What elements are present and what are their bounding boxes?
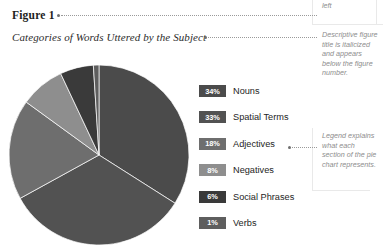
annotation-legend: Legend explains what each section of the… [322,131,378,169]
leader-dot-legend [288,146,291,149]
legend-item-social-phrases: 6%Social Phrases [199,190,314,204]
legend-swatch-percent: 34% [199,85,226,97]
legend-swatch-percent: 1% [199,217,226,229]
legend-label: Verbs [233,218,257,228]
panel-edge-top-rule [312,24,383,25]
figure-number: Figure 1 [12,9,55,21]
legend-swatch-percent: 18% [199,138,226,150]
pie-chart-svg [8,64,190,246]
legend-label: Spatial Terms [233,112,289,122]
figure-title: Categories of Words Uttered by the Subje… [12,31,206,43]
legend-swatch-percent: 33% [199,111,226,123]
legend-swatch-percent: 8% [199,164,226,176]
panel-edge-top [312,0,313,24]
legend-label: Negatives [233,165,274,175]
leader-line-legend [292,147,317,149]
pie-slice-group [9,65,189,245]
legend-swatch-percent: 6% [199,191,226,203]
leader-line-figure-title [208,37,317,39]
legend-item-nouns: 34%Nouns [199,84,314,98]
legend: 34%Nouns33%Spatial Terms18%Adjectives8%N… [199,84,314,242]
annotation-figure-title: Descriptive figure title is italicized a… [322,30,378,78]
legend-item-spatial-terms: 33%Spatial Terms [199,110,314,124]
panel-edge-legend-note-bottom [312,190,370,191]
legend-item-verbs: 1%Verbs [199,216,314,230]
legend-label: Nouns [233,86,260,96]
legend-label: Social Phrases [233,192,294,202]
leader-dot-figure-title [204,36,207,39]
leader-line-figure-number [61,15,317,17]
legend-item-negatives: 8%Negatives [199,163,314,177]
annotation-figure-number: is bold and flush left [322,0,378,10]
legend-label: Adjectives [233,139,275,149]
leader-dot-figure-number [57,14,60,17]
pie-chart [8,64,190,246]
